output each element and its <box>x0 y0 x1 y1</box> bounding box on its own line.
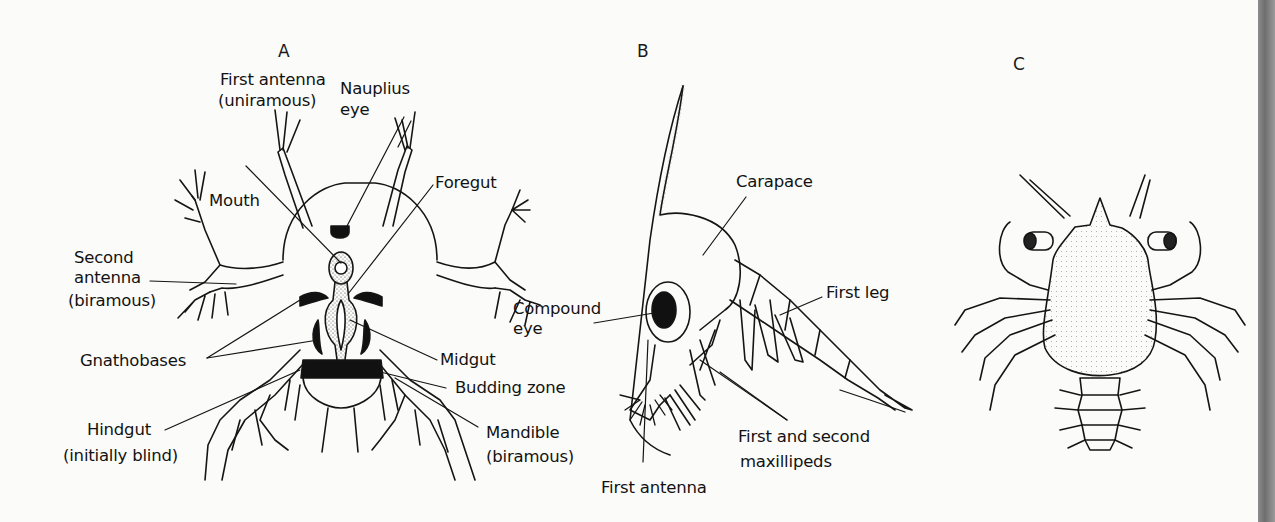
label-mouth: Mouth <box>209 191 260 211</box>
panel-letter-a: A <box>278 41 290 61</box>
label-mandible-biramous: (biramous) <box>486 447 574 467</box>
label-hindgut-initially-blind: (initially blind) <box>63 446 178 466</box>
label-nauplius-eye: Nauplius <box>340 79 410 99</box>
label-carapace: Carapace <box>736 172 813 192</box>
label-maxillipeds-2: maxillipeds <box>740 452 832 472</box>
label-first-antenna-b: First antenna <box>601 478 707 498</box>
label-second-antenna-2: antenna <box>74 268 141 288</box>
panel-b-leader-lines <box>594 197 822 462</box>
crustacean-larvae-figure: A B C First antenna (uniramous) Nauplius… <box>0 0 1275 522</box>
label-hindgut: Hindgut <box>87 420 151 440</box>
zoea-drawing <box>620 86 912 455</box>
label-first-antenna-uniramous: (uniramous) <box>218 91 316 111</box>
label-midgut: Midgut <box>440 350 496 370</box>
label-budding-zone: Budding zone <box>455 378 565 398</box>
label-gnathobases: Gnathobases <box>80 351 186 371</box>
line-art <box>0 0 1275 522</box>
label-compound-eye-2: eye <box>513 319 542 339</box>
panel-letter-c: C <box>1013 54 1025 74</box>
label-compound-eye: Compound <box>513 299 601 319</box>
label-first-antenna: First antenna <box>220 70 326 90</box>
label-nauplius-eye-2: eye <box>340 100 369 120</box>
label-mandible: Mandible <box>486 423 559 443</box>
label-first-leg: First leg <box>826 283 889 303</box>
page-edge-shadow <box>1258 0 1275 522</box>
label-second-antenna: Second <box>74 248 134 268</box>
panel-a-leader-lines <box>150 117 478 430</box>
label-maxillipeds: First and second <box>738 427 870 447</box>
label-foregut: Foregut <box>435 173 497 193</box>
panel-letter-b: B <box>637 41 649 61</box>
megalopa-drawing <box>955 175 1245 450</box>
label-second-antenna-biramous: (biramous) <box>68 291 156 311</box>
